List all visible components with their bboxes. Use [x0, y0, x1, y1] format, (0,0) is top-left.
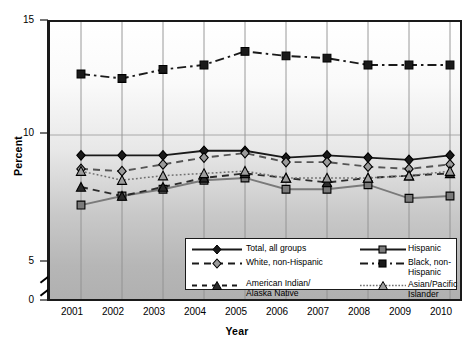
x-tick-2007: 2007: [297, 306, 339, 317]
y-tick-0: 0: [8, 294, 34, 306]
y-tick-10: 10: [8, 127, 34, 139]
legend-label-hispanic: Hispanic: [408, 242, 457, 253]
x-tick-2009: 2009: [379, 306, 421, 317]
x-tick-2010: 2010: [420, 306, 462, 317]
chart-figure: Percent Year 15 10 5 0 2001 2002 2003 20…: [0, 0, 474, 348]
legend-label-aian-line2: Alaska Native: [246, 288, 358, 298]
x-axis-title: Year: [0, 325, 474, 337]
legend-swatch-total: [190, 242, 246, 255]
legend-label-aian-line1: American Indian/: [246, 278, 358, 288]
legend-swatch-hispanic: [358, 242, 408, 255]
legend-label-aian-group: American Indian/ Alaska Native: [246, 278, 358, 298]
legend-swatch-white: [190, 256, 246, 269]
x-tick-2008: 2008: [338, 306, 380, 317]
legend-box: Total, all groups Hispanic White, non-Hi…: [185, 238, 457, 290]
legend-label-black: Black, non-Hispanic: [408, 256, 457, 277]
x-tick-2006: 2006: [256, 306, 298, 317]
legend-swatch-black: [358, 256, 408, 269]
y-tick-5: 5: [8, 255, 34, 267]
legend-label-white: White, non-Hispanic: [246, 256, 358, 267]
x-tick-2002: 2002: [92, 306, 134, 317]
legend-label-total: Total, all groups: [246, 242, 358, 253]
legend-swatch-aian: [190, 278, 246, 291]
legend-label-asian: Asian/Pacific Islander: [408, 278, 457, 299]
x-tick-2003: 2003: [133, 306, 175, 317]
x-tick-2001: 2001: [51, 306, 93, 317]
x-tick-2005: 2005: [215, 306, 257, 317]
x-tick-2004: 2004: [174, 306, 216, 317]
legend-swatch-asian: [358, 278, 408, 291]
y-tick-15: 15: [8, 14, 34, 26]
